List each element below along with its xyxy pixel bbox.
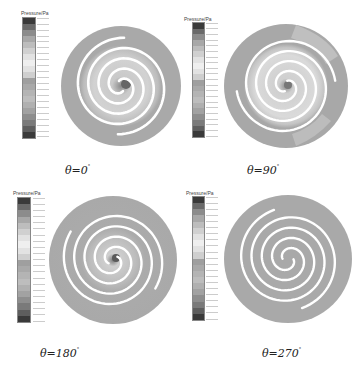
legend-tick — [206, 263, 218, 266]
legend-tick — [33, 271, 45, 274]
legend-tick — [33, 228, 45, 231]
legend-tick — [33, 234, 45, 237]
legend-tick — [33, 215, 45, 218]
degree-sign: ° — [88, 163, 91, 169]
degree-sign: ° — [277, 163, 280, 169]
caption-theta-90: θ=90° — [247, 163, 279, 177]
legend-tick — [33, 240, 45, 243]
legend-tick — [33, 277, 45, 280]
legend-tick — [206, 33, 218, 36]
legend-tick — [33, 197, 45, 200]
legend-tick — [206, 226, 218, 229]
legend-tick — [37, 118, 49, 121]
legend-tick — [206, 220, 218, 223]
legend-tick — [206, 251, 218, 254]
legend-tick — [33, 246, 45, 249]
legend-tick — [206, 112, 218, 115]
legend-tick — [33, 320, 45, 323]
legend-tick — [206, 107, 218, 110]
legend-tick — [206, 50, 218, 53]
legend-tick — [37, 41, 49, 44]
legend-tick — [206, 56, 218, 59]
legend-tick — [206, 318, 218, 321]
legend-tick — [206, 306, 218, 309]
caption-theta-180: θ=180° — [40, 346, 79, 360]
caption-text: θ=90 — [247, 164, 277, 177]
legend-tick — [206, 101, 218, 104]
pressure-color-bar — [192, 22, 205, 138]
legend-tick — [206, 257, 218, 260]
legend-tick — [33, 283, 45, 286]
legend-tick-labels — [33, 197, 45, 323]
panel-theta-180: Pressure/Pa θ=180° — [0, 183, 180, 366]
legend-tick — [206, 22, 218, 25]
legend-tick — [37, 17, 49, 20]
legend-tick — [33, 314, 45, 317]
legend-tick — [37, 106, 49, 109]
legend-tick — [37, 94, 49, 97]
caption-text: θ=0 — [65, 164, 88, 177]
legend-tick — [206, 124, 218, 127]
degree-sign: ° — [77, 346, 80, 352]
legend-tick — [206, 214, 218, 217]
legend-tick — [206, 275, 218, 278]
legend-tick — [33, 209, 45, 212]
legend-tick — [206, 95, 218, 98]
legend-tick — [33, 301, 45, 304]
legend-tick — [33, 289, 45, 292]
legend-tick — [33, 203, 45, 206]
legend-tick — [33, 265, 45, 268]
legend-tick — [206, 233, 218, 236]
legend-tick — [37, 76, 49, 79]
legend-tick — [37, 29, 49, 32]
legend-tick — [37, 100, 49, 103]
pressure-contour-disk — [60, 25, 182, 147]
legend-tick — [206, 196, 218, 199]
legend-tick — [37, 65, 49, 68]
legend-title: Pressure/Pa — [21, 10, 49, 16]
degree-sign: ° — [299, 346, 302, 352]
caption-text: θ=270 — [262, 347, 299, 360]
legend-tick — [206, 294, 218, 297]
pressure-contour-disk — [48, 195, 178, 325]
legend-title: Pressure/Pa — [13, 190, 41, 196]
legend-tick — [206, 39, 218, 42]
legend-tick — [206, 239, 218, 242]
legend-tick-labels — [206, 196, 218, 321]
legend-tick — [37, 53, 49, 56]
caption-theta-270: θ=270° — [262, 346, 301, 360]
legend-tick-labels — [37, 17, 49, 139]
legend-tick — [33, 222, 45, 225]
legend-tick — [37, 112, 49, 115]
legend-tick — [206, 281, 218, 284]
pressure-contour-disk — [223, 194, 353, 324]
legend-tick — [37, 136, 49, 139]
legend-tick — [37, 59, 49, 62]
legend-tick — [37, 82, 49, 85]
pressure-color-bar — [17, 197, 31, 323]
legend-tick — [206, 90, 218, 93]
legend-tick — [206, 269, 218, 272]
panel-theta-270: Pressure/Pa θ=270° — [180, 183, 360, 366]
pressure-color-bar — [22, 17, 36, 139]
legend-tick — [206, 312, 218, 315]
legend-tick — [37, 88, 49, 91]
legend-tick — [206, 202, 218, 205]
legend-tick-labels — [206, 22, 218, 138]
legend-tick — [33, 308, 45, 311]
legend-tick — [33, 258, 45, 261]
legend-tick — [37, 35, 49, 38]
caption-theta-0: θ=0° — [65, 163, 90, 177]
legend-tick — [33, 252, 45, 255]
legend-tick — [206, 129, 218, 132]
legend-tick — [37, 70, 49, 73]
legend-tick — [206, 118, 218, 121]
legend-tick — [37, 47, 49, 50]
legend-tick — [37, 23, 49, 26]
legend-tick — [37, 130, 49, 133]
legend-tick — [206, 45, 218, 48]
legend-tick — [206, 61, 218, 64]
pressure-contour-disk — [223, 23, 349, 149]
legend-tick — [206, 67, 218, 70]
legend-tick — [206, 287, 218, 290]
